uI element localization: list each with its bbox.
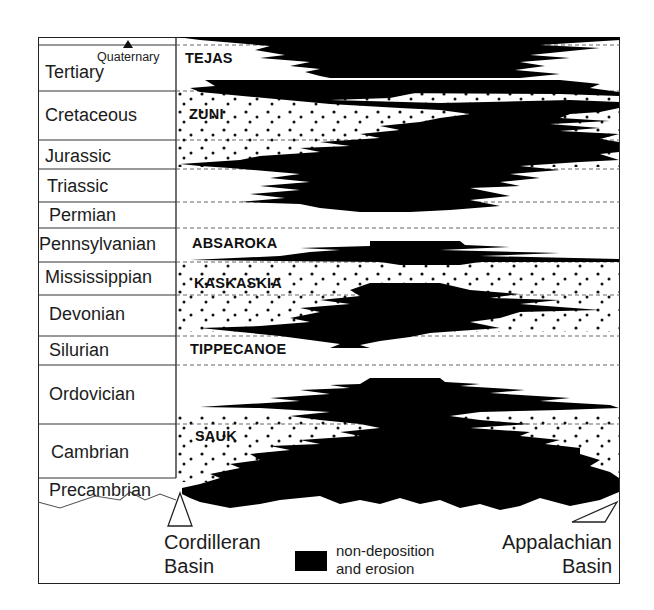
- tejas-erosion: [177, 37, 620, 78]
- period-label-cretaceous: Cretaceous: [45, 105, 137, 126]
- period-label-silurian: Silurian: [49, 340, 109, 361]
- period-label-ordovician: Ordovician: [49, 384, 135, 405]
- sequence-label-tippecanoe: TIPPECANOE: [190, 341, 286, 357]
- appalachian-basin-label: Appalachian Basin: [479, 530, 612, 578]
- legend-line2: and erosion: [336, 560, 434, 578]
- period-label-triassic: Triassic: [47, 176, 108, 197]
- cordilleran-line2: Basin: [164, 554, 261, 578]
- period-label-precambrian: Precambrian: [49, 480, 151, 501]
- quaternary-marker-icon: [123, 40, 133, 48]
- cordilleran-basin-label: Cordilleran Basin: [164, 530, 261, 578]
- sequence-label-sauk: SAUK: [195, 428, 237, 444]
- sequence-label-zuni: ZUNI: [189, 106, 224, 122]
- legend-line1: non-deposition: [336, 542, 434, 560]
- appalachian-line1: Appalachian: [479, 530, 612, 554]
- period-label-devonian: Devonian: [49, 304, 125, 325]
- appalachian-basin-icon: [572, 502, 617, 522]
- legend-swatch: [295, 551, 327, 571]
- period-label-permian: Permian: [49, 205, 116, 226]
- sequence-label-kaskaskia: KASKASKIA: [194, 275, 282, 291]
- sequence-label-tejas: TEJAS: [185, 50, 233, 66]
- appalachian-line2: Basin: [479, 554, 612, 578]
- legend-label: non-deposition and erosion: [336, 542, 434, 578]
- cordilleran-line1: Cordilleran: [164, 530, 261, 554]
- period-label-jurassic: Jurassic: [45, 146, 111, 167]
- period-label-quaternary: Quaternary: [97, 50, 160, 64]
- period-label-tertiary: Tertiary: [45, 62, 104, 83]
- sequence-label-absaroka: ABSAROKA: [192, 235, 277, 251]
- period-label-mississippian: Mississippian: [45, 267, 152, 288]
- period-label-pennsylvanian: Pennsylvanian: [39, 234, 156, 255]
- period-label-cambrian: Cambrian: [51, 442, 129, 463]
